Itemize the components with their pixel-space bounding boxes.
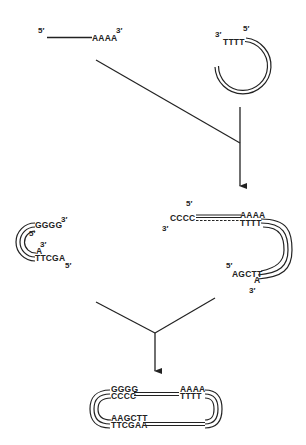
merge-line [96,60,240,143]
final-tttt-label: TTTT [180,391,202,401]
mrna-three-prime-label: 3′ [116,26,122,35]
final-left-inner-arc [98,398,111,420]
linker-gggg-label: GGGG [35,220,62,230]
linker-inner-five-prime: 5′ [29,229,35,238]
intermediate-tttt-label: TTTT [240,218,262,228]
final-cccc-label: CCCC [111,391,136,401]
mrna-strand: 5′ AAAA 3′ [38,26,122,43]
final-right-inner-arc [205,398,214,420]
vector-primer: 3′ TTTT 5′ [215,24,271,94]
intermediate-a-label: A [254,275,260,285]
intermediate-product: 5′ CCCC 3′ AAAA TTTT 5′ AGCTT A 3′ [162,199,292,295]
intermediate-top-five-prime: 5′ [186,199,192,208]
cdna-cloning-diagram: 5′ AAAA 3′ 3′ TTTT 5′ GGGG 3′ 5′ 3′ A TT… [0,0,306,445]
vector-oligo-t-label: TTTT [223,37,245,47]
vector-three-prime-label: 3′ [215,30,221,39]
step-2-arrow [96,298,215,371]
vector-inner-strand [219,42,268,91]
linker-ttcga-label: TTCGA [35,253,65,263]
y-right-arm [155,298,215,333]
intermediate-left-three-prime: 3′ [162,224,168,233]
intermediate-cccc-label: CCCC [170,213,195,223]
mrna-five-prime-label: 5′ [38,26,44,35]
final-ttcgaa-label: TTCGAA [111,420,148,430]
intermediate-lower-three-prime: 3′ [249,286,255,295]
y-left-arm [96,302,155,333]
vector-five-prime-label: 5′ [243,24,249,33]
linker-gggg-three-prime: 3′ [61,215,67,224]
mrna-poly-a-label: AAAA [92,33,117,43]
intermediate-innermost-arc [261,227,284,271]
linker-hairpin: GGGG 3′ 5′ 3′ A TTCGA 5′ [16,215,71,270]
final-circular-product: GGGG CCCC AAAA TTTT AAGCTT TTCGAA [90,384,222,430]
linker-ttcga-five-prime: 5′ [65,261,71,270]
